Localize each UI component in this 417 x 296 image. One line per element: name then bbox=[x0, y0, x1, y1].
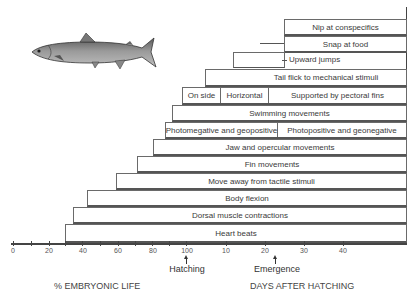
emergence-label: Emergence bbox=[254, 264, 300, 274]
bar-label: Jaw and opercular movements bbox=[226, 143, 335, 152]
tick-label: 10 bbox=[222, 247, 230, 254]
bar-jaw-opercular: Jaw and opercular movements bbox=[153, 139, 407, 156]
bar-label: Snap at food bbox=[323, 40, 368, 49]
bar-label: Body flexion bbox=[225, 194, 269, 203]
bar-body-flexion: Body flexion bbox=[87, 190, 407, 207]
tick-label: 0 bbox=[11, 247, 15, 254]
axis-tick bbox=[31, 241, 32, 246]
bar-swimming-movements: Swimming movements bbox=[172, 105, 407, 122]
hatching-label: Hatching bbox=[169, 264, 205, 274]
axis-tick bbox=[343, 241, 344, 246]
tick-label: 60 bbox=[114, 247, 122, 254]
axis-tick bbox=[82, 241, 83, 246]
axis-tick bbox=[304, 241, 305, 246]
axis-tick bbox=[152, 241, 153, 246]
segment-on-side: On side bbox=[183, 88, 221, 103]
salmon-fish-icon bbox=[30, 30, 160, 75]
bar-label: Nip at conspecifics bbox=[312, 23, 379, 32]
segment-photonegative-geopositive: Photomegative and geopositive bbox=[166, 123, 278, 137]
bar-tail-flick: Tail flick to mechanical stimuli bbox=[205, 69, 407, 87]
bar-fin-movements: Fin movements bbox=[137, 156, 407, 173]
bar-label: Fin movements bbox=[245, 160, 300, 169]
bar-label: Dorsal muscle contractions bbox=[192, 211, 288, 220]
x-axis-line bbox=[11, 243, 407, 245]
tick-label: 40 bbox=[339, 247, 347, 254]
bar-label: Swimming movements bbox=[249, 109, 329, 118]
axis-tick bbox=[65, 241, 66, 246]
axis-tick bbox=[226, 241, 227, 246]
tick-label: 80 bbox=[149, 247, 157, 254]
bar-label: Heart beats bbox=[215, 229, 256, 238]
bar-posture: On side Horizontal Supported by pectoral… bbox=[182, 87, 407, 105]
bar-snap-at-food: Snap at food bbox=[284, 36, 407, 53]
segment-supported-by-pectoral-fins: Supported by pectoral fins bbox=[269, 88, 406, 103]
bar-upward-jumps bbox=[233, 52, 285, 68]
bar-phototaxis: Photomegative and geopositive Photoposit… bbox=[165, 122, 407, 139]
tick-label: 20 bbox=[45, 247, 53, 254]
axis-tick bbox=[265, 241, 266, 246]
segment-photopositive-geonegative: Photopositive and geonegative bbox=[278, 123, 406, 137]
bar-nip-at-conspecifics: Nip at conspecifics bbox=[284, 19, 407, 36]
axis-tick bbox=[186, 241, 187, 246]
bar-move-away: Move away from tactile stimuli bbox=[116, 173, 407, 190]
axis-tick bbox=[13, 241, 14, 246]
bar-label: Tail flick to mechanical stimuli bbox=[274, 73, 378, 82]
x-axis-title-days: DAYS AFTER HATCHING bbox=[250, 281, 354, 291]
x-axis-title-embryonic: % EMBRYONIC LIFE bbox=[54, 281, 140, 291]
axis-tick bbox=[118, 241, 119, 246]
bar-label: Move away from tactile stimuli bbox=[208, 177, 315, 186]
tick-label: 100 bbox=[181, 247, 193, 254]
snap-at-food-lead-line bbox=[260, 43, 284, 44]
upward-jumps-tick bbox=[282, 60, 287, 61]
upward-jumps-label: Upward jumps bbox=[289, 55, 340, 64]
tick-label: 30 bbox=[300, 247, 308, 254]
tick-label: 20 bbox=[261, 247, 269, 254]
axis-tick bbox=[49, 241, 50, 246]
tick-label: 40 bbox=[79, 247, 87, 254]
axis-tick bbox=[135, 241, 136, 246]
bar-dorsal-muscle: Dorsal muscle contractions bbox=[73, 207, 407, 224]
axis-tick bbox=[100, 241, 101, 246]
axis-tick bbox=[169, 241, 170, 246]
bar-heart-beats: Heart beats bbox=[65, 224, 407, 243]
segment-horizontal: Horizontal bbox=[221, 88, 269, 103]
